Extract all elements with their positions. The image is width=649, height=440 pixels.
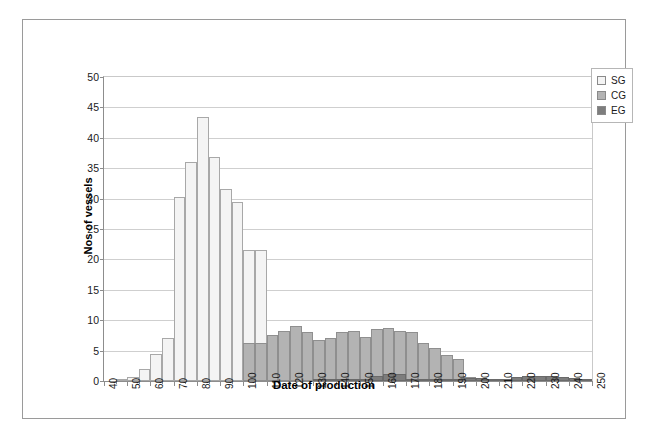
y-tick-label: 45 [87,101,99,113]
y-tick-label: 5 [93,345,99,357]
x-axis: 4050607080901001101201301401501601701801… [104,77,592,381]
legend-label: SG [611,75,625,86]
legend-item: CG [597,88,626,103]
y-tick-label: 20 [87,253,99,265]
y-tick-label: 30 [87,193,99,205]
y-axis-label: Nos of vessels [82,177,94,254]
legend-item: SG [597,73,626,88]
legend-swatch-icon [597,91,606,100]
y-tick-label: 50 [87,71,99,83]
legend-swatch-icon [597,106,606,115]
legend: SGCGEG [591,68,633,123]
y-tick-label: 15 [87,284,99,296]
legend-label: CG [611,90,626,101]
y-tick-label: 40 [87,132,99,144]
y-tick-label: 10 [87,314,99,326]
y-tick-label: 35 [87,162,99,174]
chart-frame: Nos of vessels 05101520253035404550 4050… [22,19,626,419]
legend-swatch-icon [597,76,606,85]
plot-area: 05101520253035404550 4050607080901001101… [103,76,593,382]
y-tick-label: 25 [87,223,99,235]
legend-item: EG [597,103,626,118]
x-axis-label: Date of production [23,379,625,391]
legend-label: EG [611,105,625,116]
